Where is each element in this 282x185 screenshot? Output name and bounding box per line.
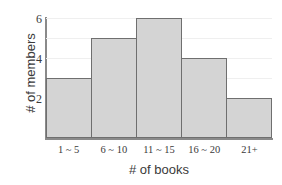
x-tick-label-16-20: 16 ~ 20	[182, 143, 227, 159]
y-tick-label-4: 4	[2, 53, 42, 65]
bar-21plus	[226, 98, 272, 138]
x-tick-label-21plus: 21+	[227, 143, 272, 159]
plot-area	[46, 18, 272, 138]
x-tick-label-6-10: 6 ~ 10	[91, 143, 136, 159]
y-tick-label-2: 2	[2, 93, 42, 105]
y-axis-tick-labels: 6 4 2	[0, 0, 42, 185]
bar-11-15	[136, 18, 182, 138]
x-axis-title: # of books	[46, 162, 272, 177]
x-tick-label-1-5: 1 ~ 5	[46, 143, 91, 159]
bar-6-10	[91, 38, 137, 138]
bar-series	[46, 18, 272, 138]
x-axis-line	[45, 138, 273, 140]
bar-16-20	[181, 58, 227, 138]
x-tick-label-11-15: 11 ~ 15	[136, 143, 181, 159]
y-tick-label-6: 6	[2, 13, 42, 25]
histogram-chart: # of members 6 4 2 1 ~ 5 6 ~ 10 11 ~ 15 …	[0, 0, 282, 185]
x-axis-tick-labels: 1 ~ 5 6 ~ 10 11 ~ 15 16 ~ 20 21+	[46, 143, 272, 159]
bar-1-5	[46, 78, 92, 138]
